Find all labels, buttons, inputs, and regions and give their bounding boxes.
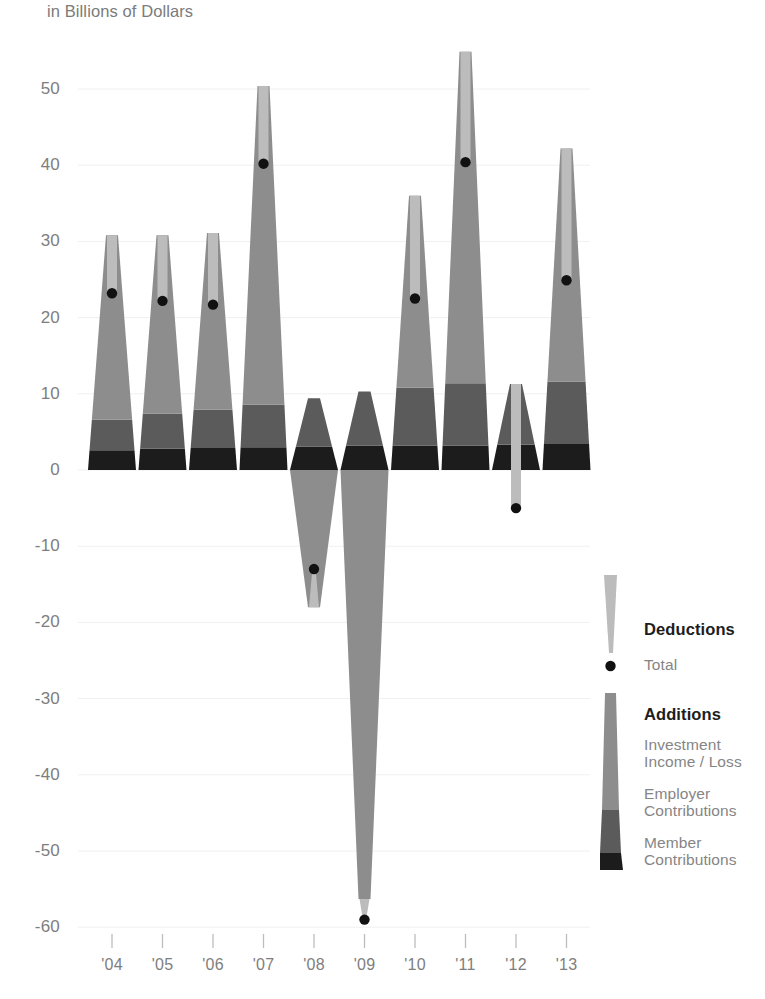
legend-title-additions: Additions <box>644 705 721 724</box>
bar-segment-member-contributions-08 <box>290 446 338 470</box>
chart-root: in Billions of Dollars 50403020100-10-20… <box>0 0 765 999</box>
bar-segment-member-contributions-04 <box>88 450 136 470</box>
y-axis-label-neg10: -10 <box>14 536 60 556</box>
bar-segment-member-contributions-05 <box>139 449 187 470</box>
x-axis-label-08: '08 <box>303 956 324 974</box>
bar-segment-deductions-11 <box>461 52 471 162</box>
total-dot-06 <box>208 299 218 309</box>
y-axis-label-neg50: -50 <box>14 841 60 861</box>
y-axis-label-0: 0 <box>14 460 60 480</box>
x-axis-label-13: '13 <box>556 956 577 974</box>
bar-segment-member-contributions-07 <box>240 447 288 470</box>
legend-label-member-contributions: Member Contributions <box>644 835 737 868</box>
y-axis-label-neg20: -20 <box>14 612 60 632</box>
y-axis-label-10: 10 <box>14 384 60 404</box>
x-axis-label-12: '12 <box>505 956 526 974</box>
bar-segment-member-contributions-06 <box>189 448 237 470</box>
bar-segment-member-contributions-10 <box>391 446 439 470</box>
legend-swatch-deductions <box>604 575 617 653</box>
bar-segment-member-contributions-11 <box>442 446 490 470</box>
total-dot-04 <box>107 288 117 298</box>
y-axis-label-neg40: -40 <box>14 765 60 785</box>
bar-segment-employer-contributions-04 <box>90 420 135 450</box>
total-dot-11 <box>460 157 470 167</box>
x-axis-label-07: '07 <box>253 956 274 974</box>
chart-legend: Deductions Total Additions Investment In… <box>600 565 765 875</box>
x-axis-label-09: '09 <box>354 956 375 974</box>
bar-segment-deductions-12 <box>511 384 521 508</box>
x-axis-label-05: '05 <box>152 956 173 974</box>
legend-swatch-member <box>600 853 623 870</box>
bar-segment-employer-contributions-05 <box>140 414 185 449</box>
bar-segment-employer-contributions-10 <box>393 388 438 446</box>
total-dot-13 <box>561 275 571 285</box>
bar-segment-investment-loss-09 <box>341 470 389 899</box>
x-axis-label-11: '11 <box>455 956 475 974</box>
bar-segment-employer-contributions-09 <box>346 392 383 446</box>
bar-segment-employer-contributions-11 <box>443 383 489 445</box>
legend-title-deductions: Deductions <box>644 620 735 639</box>
legend-swatch-investment <box>602 693 619 810</box>
legend-swatch-group <box>600 565 632 875</box>
y-axis-label-neg30: -30 <box>14 689 60 709</box>
bar-segment-employer-contributions-07 <box>241 404 287 447</box>
x-axis-label-06: '06 <box>202 956 223 974</box>
legend-label-total: Total <box>644 657 677 674</box>
bar-segment-deductions-13 <box>562 148 572 280</box>
bar-segment-deductions-06 <box>208 233 218 305</box>
legend-label-investment-income-loss: Investment Income / Loss <box>644 737 742 770</box>
total-dot-05 <box>157 296 167 306</box>
bar-segment-member-contributions-13 <box>543 444 591 470</box>
total-dot-09 <box>359 914 369 924</box>
legend-swatch-total <box>605 661 615 671</box>
y-axis-label-30: 30 <box>14 231 60 251</box>
legend-label-employer-contributions: Employer Contributions <box>644 786 737 819</box>
total-dot-08 <box>309 564 319 574</box>
x-axis-label-04: '04 <box>101 956 122 974</box>
legend-swatch-employer <box>600 810 621 853</box>
bar-segment-employer-contributions-08 <box>296 398 332 446</box>
y-axis-label-50: 50 <box>14 79 60 99</box>
total-dot-12 <box>511 503 521 513</box>
bar-segment-deductions-10 <box>410 196 420 299</box>
y-axis-label-20: 20 <box>14 308 60 328</box>
bar-segment-employer-contributions-13 <box>544 382 589 444</box>
bar-segment-member-contributions-09 <box>341 446 389 470</box>
y-axis-label-neg60: -60 <box>14 917 60 937</box>
bar-segment-deductions-07 <box>259 86 269 164</box>
bar-segment-employer-contributions-06 <box>191 410 236 448</box>
total-dot-10 <box>410 293 420 303</box>
bar-segment-deductions-05 <box>158 235 168 301</box>
total-dot-07 <box>258 158 268 168</box>
bar-segment-deductions-04 <box>107 235 117 293</box>
y-axis-label-40: 40 <box>14 155 60 175</box>
x-axis-label-10: '10 <box>404 956 425 974</box>
